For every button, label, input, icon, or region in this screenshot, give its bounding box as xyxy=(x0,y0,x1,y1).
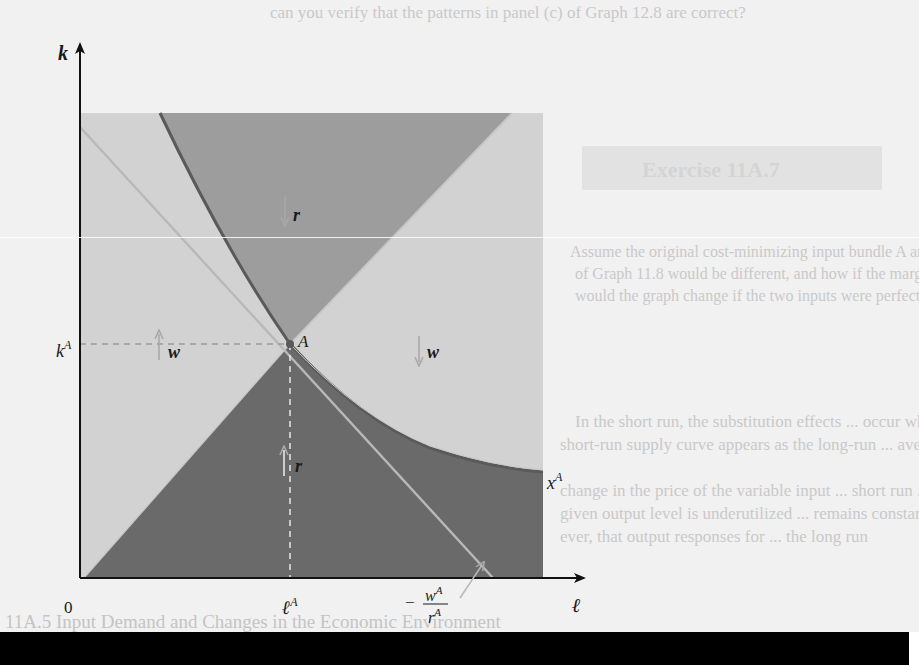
l-axis-label: ℓ xyxy=(572,594,581,616)
point-a-label: A xyxy=(297,332,309,351)
horizontal-divider xyxy=(0,237,919,238)
arrow-down-w-label: w xyxy=(427,342,440,362)
slope-denominator: rA xyxy=(428,606,441,626)
l-a-label: ℓA xyxy=(282,595,298,618)
origin-label: 0 xyxy=(64,598,73,617)
k-axis-label: k xyxy=(58,42,68,64)
bottom-black-bar xyxy=(0,632,909,665)
arrow-down-r-label: r xyxy=(293,205,301,225)
arrow-up-w-label: w xyxy=(168,342,181,362)
slope-numerator: wA xyxy=(425,584,443,604)
isoquant-label: xA xyxy=(546,470,563,493)
bottom-right-gap xyxy=(909,632,919,665)
slope-minus: − xyxy=(405,593,415,612)
point-a xyxy=(286,340,294,348)
cost-minimization-diagram: k ℓ 0 kA ℓA A xA − wA rA r w w r xyxy=(0,0,919,665)
k-a-label: kA xyxy=(56,338,72,361)
arrow-up-r-label: r xyxy=(295,456,303,476)
